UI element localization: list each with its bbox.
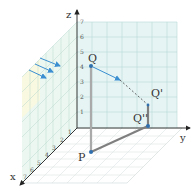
y-axis-label: y — [179, 132, 186, 143]
x-axis-label: x — [10, 171, 16, 182]
x-tick: 4 — [45, 151, 49, 158]
z-tick: 6 — [80, 33, 84, 40]
z-axis-label: z — [66, 9, 71, 20]
z-tick: 3 — [80, 78, 84, 85]
z-tick: 4 — [80, 63, 84, 70]
z-tick: 1 — [80, 108, 84, 115]
x-tick: 7 — [23, 173, 27, 180]
point-p — [89, 150, 93, 154]
x-tick: 3 — [52, 144, 56, 151]
point-p-label: P — [78, 151, 86, 164]
x-tick: 2 — [60, 136, 64, 143]
point-q-prime — [147, 104, 150, 107]
3d-coordinate-diagram: z y x 1 2 3 4 5 6 7 1 2 3 4 5 6 7 Q P Q' — [0, 0, 196, 194]
point-q-label: Q — [88, 52, 97, 65]
point-q-double-prime-label: Q'' — [133, 112, 148, 125]
x-tick: 6 — [30, 166, 34, 173]
point-q-prime-label: Q' — [151, 87, 163, 100]
z-tick: 5 — [80, 48, 84, 55]
x-tick: 1 — [68, 128, 72, 135]
z-tick: 7 — [80, 18, 84, 25]
z-tick: 2 — [80, 93, 84, 100]
x-tick: 5 — [37, 159, 41, 166]
